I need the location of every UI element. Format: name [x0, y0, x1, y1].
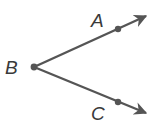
- vertex-b-dot: [31, 64, 38, 71]
- angle-diagram: A B C: [0, 0, 168, 125]
- label-c: C: [91, 103, 105, 124]
- ray-ba: [34, 16, 146, 67]
- label-b: B: [5, 57, 18, 78]
- point-a-dot: [115, 26, 121, 32]
- point-c-dot: [115, 99, 121, 105]
- label-a: A: [90, 10, 104, 31]
- ray-bc-line: [34, 67, 146, 113]
- ray-bc: [34, 67, 146, 113]
- ray-ba-line: [34, 16, 146, 67]
